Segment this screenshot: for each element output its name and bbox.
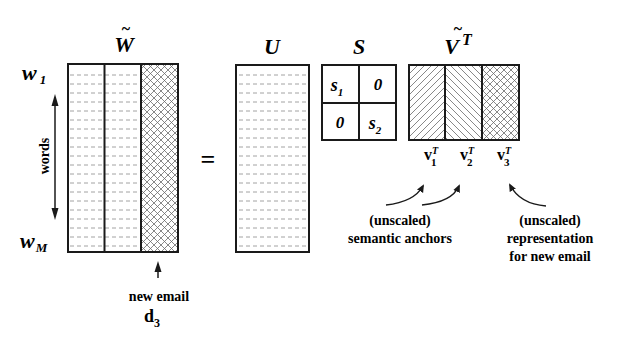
w-tilde-accent: ~	[122, 20, 131, 37]
s-cell-s2: s2	[368, 113, 382, 136]
v3t-label: vT3	[497, 145, 512, 168]
representation-caption: (unscaled) representation for new email	[507, 213, 594, 264]
row-label-wM: wM	[20, 228, 48, 255]
v-column-1-hatch	[409, 65, 445, 140]
arrow-up-icon	[155, 261, 162, 272]
v-column-2-hatch	[445, 65, 482, 140]
svd-diagram: W ~	[0, 0, 628, 346]
svg-text:semantic anchors: semantic anchors	[348, 231, 452, 246]
words-axis-label: words	[37, 137, 52, 174]
curved-arrow-icon	[510, 185, 546, 206]
s-label: S	[353, 34, 365, 59]
s-cell-s1: s1	[330, 75, 344, 98]
equals-sign: =	[201, 145, 216, 174]
annotation-arrows	[386, 185, 546, 206]
svg-text:(unscaled): (unscaled)	[519, 213, 581, 229]
curved-arrow-icon	[386, 186, 423, 205]
u-label: U	[264, 34, 281, 59]
words-axis: words	[36, 94, 59, 220]
s-cell-zero-top: 0	[374, 75, 383, 94]
u-matrix: U	[236, 34, 309, 252]
v-tilde-t-matrix: VT ~ vT1 vT2 vT3	[409, 20, 519, 168]
curved-arrow-icon	[422, 186, 459, 205]
v-column-3-hatch	[482, 65, 519, 140]
semantic-anchors-caption: (unscaled) semantic anchors	[348, 213, 452, 246]
arrow-down-icon	[52, 208, 59, 220]
w-tilde-matrix: W ~	[20, 20, 178, 255]
s-cell-zero-bottom: 0	[336, 113, 345, 132]
svg-text:representation: representation	[507, 231, 594, 246]
new-email-annotation: new email d3	[129, 261, 189, 330]
svg-text:(unscaled): (unscaled)	[369, 213, 431, 229]
u-dashed-rows	[239, 75, 307, 246]
v2t-label: vT2	[460, 145, 475, 168]
w-new-email-column	[141, 64, 178, 252]
v1t-label: vT1	[424, 145, 439, 168]
s-matrix: S s1 0 0 s2	[322, 34, 396, 140]
arrow-up-icon	[52, 94, 59, 106]
d3-label: d3	[144, 306, 160, 330]
new-email-label: new email	[129, 289, 189, 304]
svg-text:for new email: for new email	[509, 249, 590, 264]
v-tilde-accent: ~	[454, 20, 463, 37]
row-label-w1: w1	[22, 60, 46, 87]
